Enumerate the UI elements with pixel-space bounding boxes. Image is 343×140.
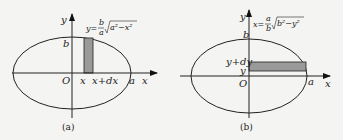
ellipse-area-diagrams: y x O b a x x+dx y= b a a²−x² (a) y x O … [0, 0, 343, 140]
origin-label-a: O [62, 75, 70, 86]
formula-b: x= a b b²−y² [253, 14, 304, 33]
a-label-b: a [308, 76, 314, 87]
x-axis-label-a: x [142, 75, 148, 86]
caption-a: (a) [62, 122, 74, 132]
svg-text:b²−y²: b²−y² [277, 19, 300, 28]
svg-text:x=: x= [253, 20, 264, 29]
x-axis-label-b: x [325, 78, 331, 89]
b-label-a: b [63, 38, 69, 49]
a-label-a: a [129, 75, 135, 86]
caption-b: (b) [240, 122, 253, 132]
svg-text:a: a [266, 14, 271, 23]
x-plus-dx-label: x+dx [92, 75, 118, 86]
svg-text:b: b [99, 18, 104, 27]
svg-text:a²−x²: a²−x² [110, 23, 132, 32]
x-label-a: x [80, 75, 86, 86]
y-axis-label-b: y [239, 11, 246, 22]
figure-b: y x O b a y y+dy x= a b b²−y² (b) [180, 10, 331, 132]
figure-a: y x O b a x x+dx y= b a a²−x² (a) [12, 14, 157, 132]
strip-vertical [84, 38, 93, 73]
svg-text:y=: y= [85, 24, 97, 33]
y-axis-label-a: y [60, 14, 67, 25]
y-plus-dy-label: y+dy [225, 56, 252, 67]
formula-a: y= b a a²−x² [85, 18, 137, 37]
origin-label-b: O [239, 78, 247, 89]
svg-text:b: b [266, 24, 271, 33]
svg-text:a: a [99, 28, 104, 37]
b-label-b: b [243, 29, 249, 40]
strip-horizontal [249, 62, 306, 71]
